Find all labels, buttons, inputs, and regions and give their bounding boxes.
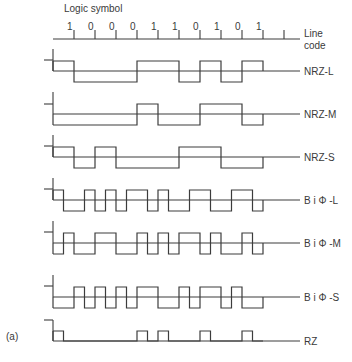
waveform-label: RZ: [304, 336, 317, 347]
waveform-label: NRZ-M: [304, 109, 336, 120]
waveform-biphi-m: B i Φ -M: [44, 221, 341, 254]
waveform-trace: [53, 331, 263, 341]
bit-label: 0: [88, 21, 94, 32]
bit-label: 1: [214, 21, 220, 32]
bit-label: 0: [193, 21, 199, 32]
bit-label: 0: [109, 21, 115, 32]
waveform-label: B i Φ -M: [304, 238, 341, 249]
bit-label: 1: [256, 21, 262, 32]
waveform-trace: [53, 190, 263, 211]
logic-symbol-bit-labels: 1000110101: [67, 21, 262, 32]
waveform-trace: [53, 287, 263, 308]
bit-label: 1: [172, 21, 178, 32]
bit-label: 0: [235, 21, 241, 32]
waveform-rz: RZ: [44, 320, 317, 347]
waveform-label: B i Φ -S: [304, 292, 340, 303]
line-code-diagram: Logic symbol 1000110101 Line code NRZ-LN…: [0, 0, 352, 362]
line-code-axis-label-line2: code: [304, 40, 326, 51]
bit-label: 1: [151, 21, 157, 32]
bit-label: 0: [130, 21, 136, 32]
waveform-biphi-l: B i Φ -L: [44, 178, 339, 211]
waveform-label: NRZ-L: [304, 66, 334, 77]
waveform-label: B i Φ -L: [304, 195, 339, 206]
line-code-axis-label-line1: Line: [304, 28, 323, 39]
waveform-label: NRZ-S: [304, 152, 335, 163]
panel-label: (a): [6, 331, 18, 342]
bit-label: 1: [67, 21, 73, 32]
waveform-nrz-s: NRZ-S: [44, 135, 335, 168]
waveform-biphi-s: B i Φ -S: [44, 275, 340, 308]
waveform-nrz-m: NRZ-M: [44, 92, 336, 125]
waveform-nrz-l: NRZ-L: [44, 49, 334, 82]
waveforms-group: NRZ-LNRZ-MNRZ-SB i Φ -LB i Φ -MB i Φ -SR…: [44, 49, 341, 347]
logic-symbol-title: Logic symbol: [64, 3, 122, 14]
